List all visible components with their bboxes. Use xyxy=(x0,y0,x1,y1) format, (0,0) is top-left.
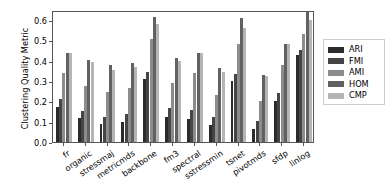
legend-item: CMP xyxy=(328,90,380,101)
legend-item: AMI xyxy=(328,67,380,78)
legend-swatch xyxy=(328,81,344,87)
legend: ARIFMIAMIHOMCMP xyxy=(323,39,385,105)
legend-swatch xyxy=(328,58,344,64)
x-axis-tick-mark xyxy=(107,143,108,146)
legend-item: HOM xyxy=(328,79,380,90)
legend-swatch xyxy=(328,70,344,76)
y-axis-tick-mark xyxy=(49,143,52,144)
y-axis-tick-label: 0.5 xyxy=(24,36,47,46)
bar xyxy=(265,76,268,142)
legend-swatch xyxy=(328,47,344,53)
x-axis-tick-mark xyxy=(303,143,304,146)
legend-item: ARI xyxy=(328,44,380,55)
bar xyxy=(222,72,225,142)
bar xyxy=(134,67,137,142)
y-axis-tick-label: 0.4 xyxy=(24,57,47,67)
x-axis-tick-mark xyxy=(172,143,173,146)
x-axis-tick-mark xyxy=(281,143,282,146)
legend-swatch xyxy=(328,93,344,99)
bar xyxy=(200,53,203,142)
x-axis-tick-mark xyxy=(238,143,239,146)
bar xyxy=(91,62,94,142)
x-axis-tick-mark xyxy=(259,143,260,146)
x-axis-tick-mark xyxy=(194,143,195,146)
x-axis-tick-mark xyxy=(216,143,217,146)
legend-label: FMI xyxy=(349,56,363,67)
x-axis-tick-mark xyxy=(150,143,151,146)
bar xyxy=(287,44,290,142)
y-axis-tick-label: 0.3 xyxy=(24,77,47,87)
legend-label: CMP xyxy=(349,90,367,101)
bar xyxy=(178,61,181,142)
bar xyxy=(112,70,115,142)
y-axis-tick-label: 0.0 xyxy=(24,138,47,148)
bar xyxy=(309,20,312,142)
x-axis-tick-mark xyxy=(63,143,64,146)
x-axis-tick-mark xyxy=(128,143,129,146)
plot-area xyxy=(52,11,314,143)
legend-label: AMI xyxy=(349,67,364,78)
bar xyxy=(156,24,159,142)
x-axis-tick-mark xyxy=(85,143,86,146)
bar xyxy=(243,28,246,142)
legend-label: HOM xyxy=(349,79,369,90)
y-axis-tick-label: 0.1 xyxy=(24,118,47,128)
legend-label: ARI xyxy=(349,44,363,55)
y-axis-tick-label: 0.2 xyxy=(24,97,47,107)
y-axis-tick-label: 0.6 xyxy=(24,16,47,26)
legend-item: FMI xyxy=(328,56,380,67)
bar xyxy=(69,53,72,142)
bar-chart-figure: Clustering Quality Metric 0.00.10.20.30.… xyxy=(0,0,390,194)
